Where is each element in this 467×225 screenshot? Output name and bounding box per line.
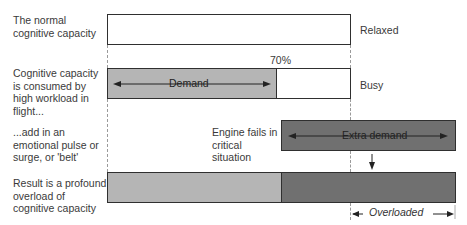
right-guide-line-4 bbox=[350, 203, 351, 220]
right-guide-line bbox=[350, 45, 351, 68]
engine-fails-label: Engine fails in critical situation bbox=[212, 126, 278, 164]
normal-capacity-bar bbox=[107, 14, 351, 45]
down-arrow-icon bbox=[371, 154, 373, 170]
demand-label: Demand bbox=[166, 77, 212, 89]
extra-demand-label: Extra demand bbox=[339, 129, 410, 141]
result-demand-segment bbox=[107, 172, 282, 203]
state-relaxed-label: Relaxed bbox=[360, 24, 399, 37]
state-busy-label: Busy bbox=[360, 79, 383, 92]
row-result-description: Result is a profound overload of cogniti… bbox=[13, 177, 108, 215]
left-guide-line-2 bbox=[107, 99, 108, 172]
left-guide-line bbox=[107, 45, 108, 68]
right-guide-line-3 bbox=[350, 151, 351, 172]
row-busy-description: Cognitive capacity is consumed by high w… bbox=[13, 67, 105, 117]
result-extra-demand-segment bbox=[281, 172, 456, 203]
percent-70-label: 70% bbox=[270, 54, 291, 67]
row-normal-description: The normal cognitive capacity bbox=[13, 14, 103, 39]
row-surge-description: ...add in an emotional pulse or surge, o… bbox=[13, 126, 113, 164]
overloaded-label: Overloaded bbox=[369, 206, 423, 218]
right-guide-line-2 bbox=[350, 99, 351, 120]
